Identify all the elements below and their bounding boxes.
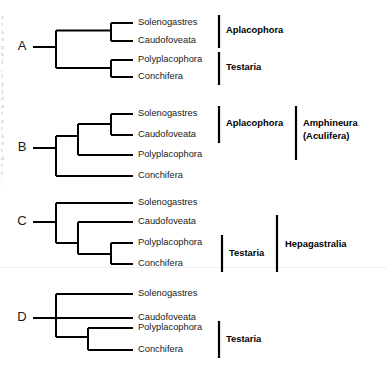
tip-label: Polyplacophora (138, 237, 203, 247)
panel-letter-c: C (17, 213, 26, 228)
tip-label: Caudofoveata (138, 312, 197, 322)
panel-d: D Solenogastres Caudofoveata Polyplacoph… (17, 288, 262, 358)
tree-canvas: A Solenogastres Caudofoveata Polyplacoph… (0, 0, 387, 370)
tip-label: Polyplacophora (138, 149, 203, 159)
panel-c: C Solenogastres Caudofoveata Polyplacoph… (17, 197, 347, 272)
group-label: Hepagastralia (285, 238, 347, 249)
tip-label: Solenogastres (138, 17, 198, 27)
phylogeny-figure: ataoas),ry)anteraordtr;. A Solenogastres… (0, 0, 387, 370)
tip-label: Polyplacophora (138, 54, 203, 64)
tip-label: Conchifera (138, 344, 184, 354)
group-label-secondary: (Aculifera) (303, 130, 349, 141)
group-label: Testaria (226, 61, 262, 72)
tip-label: Conchifera (138, 170, 184, 180)
tip-label: Caudofoveata (138, 216, 197, 226)
tip-label: Conchifera (138, 258, 184, 268)
panel-b: B Solenogastres Caudofoveata Polyplacoph… (18, 106, 359, 180)
tip-label: Solenogastres (138, 288, 198, 298)
tip-label: Polyplacophora (138, 322, 203, 332)
tip-label: Caudofoveata (138, 129, 197, 139)
tip-label: Solenogastres (138, 108, 198, 118)
tip-label: Solenogastres (138, 197, 198, 207)
group-label: Testaria (229, 247, 265, 258)
panel-letter-b: B (18, 139, 27, 154)
panel-letter-d: D (17, 309, 26, 324)
panel-letter-a: A (18, 38, 27, 53)
group-label: Aplacophora (226, 117, 284, 128)
group-label: Amphineura (303, 117, 358, 128)
group-label: Testaria (226, 333, 262, 344)
tip-label: Caudofoveata (138, 35, 197, 45)
group-label: Aplacophora (226, 24, 284, 35)
tip-label: Conchifera (138, 71, 184, 81)
panel-a: A Solenogastres Caudofoveata Polyplacoph… (18, 15, 284, 85)
